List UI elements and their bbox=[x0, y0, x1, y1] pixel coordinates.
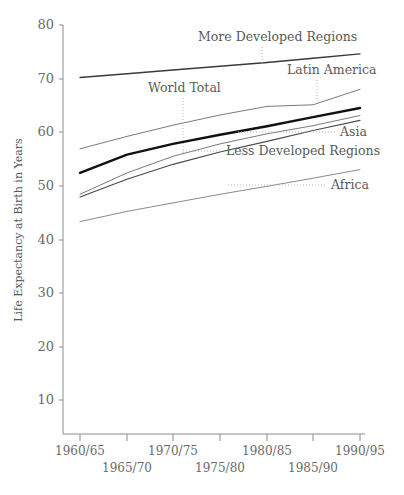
series-label: More Developed Regions bbox=[198, 29, 357, 44]
y-tick-label: 80 bbox=[37, 17, 54, 32]
y-tick-label: 20 bbox=[37, 339, 54, 354]
y-tick-label: 70 bbox=[37, 71, 54, 86]
y-tick-label: 60 bbox=[37, 124, 54, 139]
y-tick-label: 30 bbox=[37, 285, 54, 300]
x-tick-label: 1960/65 bbox=[55, 444, 105, 458]
y-tick-label: 40 bbox=[37, 232, 54, 247]
y-tick-label: 10 bbox=[37, 392, 54, 407]
series-label: Africa bbox=[330, 177, 369, 192]
x-tick-label: 1980/85 bbox=[242, 444, 292, 458]
series-label: Asia bbox=[339, 124, 367, 139]
x-tick-label: 1970/75 bbox=[148, 444, 198, 458]
series-label: Latin America bbox=[287, 62, 377, 77]
x-tick-label: 1985/90 bbox=[288, 461, 338, 475]
x-tick-label: 1990/95 bbox=[335, 444, 385, 458]
chart-container: 8070605040302010 1960/651965/701970/7519… bbox=[0, 0, 404, 495]
x-tick-label: 1965/70 bbox=[102, 461, 152, 475]
y-axis-title: Life Expectancy at Birth in Years bbox=[12, 138, 25, 322]
y-tick-label: 50 bbox=[37, 178, 54, 193]
life-expectancy-line-chart: 8070605040302010 1960/651965/701970/7519… bbox=[0, 0, 404, 495]
series-label: Less Developed Regions bbox=[226, 143, 380, 158]
x-tick-label: 1975/80 bbox=[195, 461, 245, 475]
series-label: World Total bbox=[148, 80, 221, 95]
